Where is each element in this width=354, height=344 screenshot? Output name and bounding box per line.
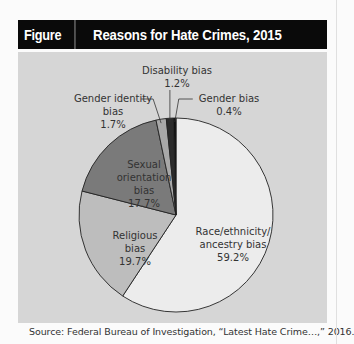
label-gender: Gender bias 0.4% [194,92,264,118]
label-gender-identity: Gender identity bias 1.7% [68,92,158,131]
figure-header: Figure 7.2 Reasons for Hate Crimes, 2015 [18,20,327,49]
label-text: bias [104,184,184,197]
label-text: Gender identity [68,92,158,105]
label-text: orientation [104,171,184,184]
figure-number: Figure 7.2 [18,20,76,49]
page-edge [336,0,337,344]
label-text: bias [100,242,170,255]
label-value: 1.2% [132,77,222,90]
label-race: Race/ethnicity/ ancestry bias 59.2% [183,225,283,264]
label-text: Religious [100,229,170,242]
label-value: 0.4% [194,105,264,118]
label-value: 59.2% [183,251,283,264]
label-value: 1.7% [68,118,158,131]
label-sexual-orientation: Sexual orientation bias 17.7% [104,158,184,210]
label-text: bias [68,105,158,118]
label-disability: Disability bias 1.2% [132,64,222,90]
label-religious: Religious bias 19.7% [100,229,170,268]
chart-panel: Disability bias 1.2% Gender identity bia… [18,52,327,323]
label-text: ancestry bias [183,238,283,251]
source-note: Source: Federal Bureau of Investigation,… [29,326,354,337]
label-text: Sexual [104,158,184,171]
label-text: Disability bias [132,64,222,77]
figure-title: Reasons for Hate Crimes, 2015 [86,26,282,43]
label-value: 17.7% [104,197,184,210]
label-text: Gender bias [194,92,264,105]
label-text: Race/ethnicity/ [183,225,283,238]
label-value: 19.7% [100,255,170,268]
